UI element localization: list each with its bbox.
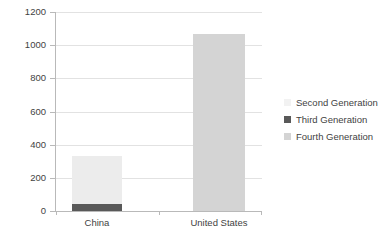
x-axis-line bbox=[50, 211, 262, 212]
legend-item-fourth-generation: Fourth Generation bbox=[284, 129, 391, 144]
y-tick-mark-800 bbox=[50, 78, 55, 79]
y-axis-line bbox=[55, 12, 56, 212]
y-axis-labels: 1200 1000 800 600 400 200 0 bbox=[0, 0, 46, 239]
x-tick-mark-united-states bbox=[261, 211, 262, 215]
y-tick-label-800: 800 bbox=[2, 73, 46, 83]
x-tick-mark-midpoint bbox=[159, 211, 160, 215]
y-tick-label-400: 400 bbox=[2, 140, 46, 150]
x-tick-label-united-states: United States bbox=[179, 217, 259, 228]
y-tick-mark-1200 bbox=[50, 12, 55, 13]
bar-china-third-generation bbox=[72, 204, 122, 211]
legend-item-second-generation: Second Generation bbox=[284, 95, 391, 110]
legend-label-second-generation: Second Generation bbox=[296, 97, 378, 108]
legend-label-third-generation: Third Generation bbox=[296, 114, 367, 125]
y-tick-mark-400 bbox=[50, 145, 55, 146]
bar-china-fourth-generation bbox=[72, 156, 122, 205]
legend-swatch-fourth-generation bbox=[284, 133, 291, 140]
gridline-1200 bbox=[56, 12, 262, 13]
legend-swatch-second-generation bbox=[284, 99, 291, 106]
x-tick-mark-china bbox=[56, 211, 57, 215]
legend-item-third-generation: Third Generation bbox=[284, 112, 391, 127]
y-tick-mark-0 bbox=[50, 211, 55, 212]
x-tick-label-china: China bbox=[62, 217, 132, 228]
y-tick-label-600: 600 bbox=[2, 107, 46, 117]
y-tick-mark-1000 bbox=[50, 45, 55, 46]
legend-label-fourth-generation: Fourth Generation bbox=[296, 131, 373, 142]
y-tick-label-1000: 1000 bbox=[2, 40, 46, 50]
y-tick-label-0: 0 bbox=[2, 206, 46, 216]
legend: Second Generation Third Generation Fourt… bbox=[284, 95, 391, 146]
bar-chart: 1200 1000 800 600 400 200 0 China United… bbox=[0, 0, 391, 239]
y-tick-label-200: 200 bbox=[2, 173, 46, 183]
legend-swatch-third-generation bbox=[284, 116, 291, 123]
y-tick-mark-200 bbox=[50, 178, 55, 179]
y-tick-label-1200: 1200 bbox=[2, 7, 46, 17]
y-tick-mark-600 bbox=[50, 112, 55, 113]
bar-united-states-fourth-generation bbox=[193, 34, 245, 211]
